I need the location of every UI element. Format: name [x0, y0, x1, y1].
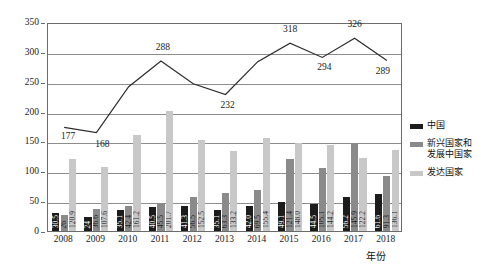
legend-label-line2: 发展中国家	[427, 149, 472, 160]
chart-legend: 中国新兴国家和发展中国家发达国家	[410, 120, 495, 185]
line-point-label: 168	[95, 139, 109, 149]
x-tick-label: 2014	[247, 234, 266, 244]
x-axis-title: 年份	[366, 248, 386, 263]
line-point-label: 294	[317, 62, 331, 72]
x-tick-label: 2013	[215, 234, 234, 244]
x-tick-label: 2015	[280, 234, 299, 244]
legend-item-1[interactable]: 新兴国家和发展中国家	[410, 138, 495, 160]
x-tick-label: 2017	[344, 234, 363, 244]
x-tick-label: 2018	[376, 234, 395, 244]
y-tick-mark	[41, 83, 45, 84]
legend-item-2[interactable]: 发达国家	[410, 167, 495, 178]
chart-root: 投资金额/(×10亿美元) 050100150200250300350 30.5…	[0, 0, 497, 275]
x-tick-label: 2008	[54, 234, 73, 244]
total-line-path	[64, 38, 387, 132]
line-point-label: 288	[156, 42, 170, 52]
y-tick-mark	[41, 113, 45, 114]
line-point-label: 289	[376, 66, 390, 76]
line-point-label: 326	[347, 19, 361, 29]
y-tick-mark	[41, 53, 45, 54]
plot-area: 30.526120.92436.6107.635.142.4161.240.54…	[47, 23, 402, 232]
y-tick-mark	[41, 202, 45, 203]
y-axis-tick-labels: 050100150200250300350	[0, 23, 44, 232]
y-tick-label: 350	[25, 18, 39, 28]
y-tick-mark	[41, 232, 45, 233]
legend-item-0[interactable]: 中国	[410, 120, 495, 131]
x-tick-label: 2016	[312, 234, 331, 244]
legend-label-line1: 新兴国家和	[427, 138, 472, 149]
legend-swatch-icon	[410, 142, 423, 147]
legend-swatch-icon	[410, 124, 423, 129]
y-tick-label: 300	[25, 48, 39, 58]
x-tick-label: 2012	[183, 234, 202, 244]
y-tick-mark	[41, 23, 45, 24]
y-tick-label: 250	[25, 78, 39, 88]
legend-item-label: 中国	[427, 120, 445, 131]
y-tick-mark	[41, 142, 45, 143]
line-point-label: 232	[220, 100, 234, 110]
y-tick-label: 200	[25, 108, 39, 118]
x-tick-label: 2009	[86, 234, 105, 244]
y-tick-label: 100	[25, 168, 39, 178]
y-tick-label: 0	[34, 227, 39, 237]
legend-item-label: 发达国家	[427, 167, 463, 178]
y-tick-mark	[41, 172, 45, 173]
x-tick-label: 2011	[151, 234, 170, 244]
line-series	[48, 24, 403, 233]
line-point-label: 318	[283, 24, 297, 34]
legend-swatch-icon	[410, 171, 423, 176]
x-axis-tick-labels: 2008200920102011201220132014201520162017…	[47, 234, 402, 250]
y-tick-label: 50	[30, 197, 40, 207]
line-point-label: 177	[61, 131, 75, 141]
legend-item-label: 新兴国家和发展中国家	[427, 138, 472, 160]
x-tick-label: 2010	[118, 234, 137, 244]
y-tick-label: 150	[25, 138, 39, 148]
